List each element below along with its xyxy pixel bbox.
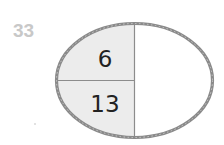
part-top-left-value: 6 (98, 46, 113, 72)
speck (34, 123, 36, 125)
empty-right-half (135, 23, 215, 139)
part-bottom-left-value: 13 (90, 91, 119, 117)
